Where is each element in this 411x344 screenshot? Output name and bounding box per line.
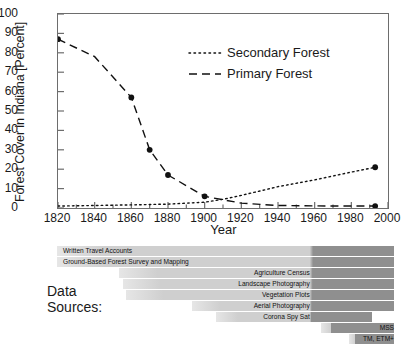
- y-tick-label: 10: [0, 182, 18, 194]
- data-source-row: Corona Spy Sat: [216, 312, 371, 322]
- data-source-row: Agriculture Census: [119, 268, 394, 278]
- data-source-label: Corona Spy Sat: [263, 312, 310, 322]
- legend-label-primary-forest: Primary Forest: [227, 66, 312, 81]
- data-point: [372, 203, 378, 208]
- legend-item-primary-forest: Primary Forest: [188, 63, 330, 84]
- data-point: [128, 95, 134, 101]
- data-sources-title: Data Sources:: [47, 283, 102, 315]
- data-source-label: Vegetation Plots: [262, 290, 310, 300]
- data-source-label: Landscape Photography: [238, 279, 310, 289]
- y-tick-label: 0: [0, 201, 18, 213]
- series-line: [58, 167, 375, 206]
- legend-label-secondary-forest: Secondary Forest: [227, 45, 330, 60]
- x-axis-label: Year: [57, 222, 390, 237]
- legend-key-dashed-icon: [188, 68, 222, 80]
- data-sources-panel: Data Sources: Written Travel AccountsGro…: [0, 243, 411, 343]
- data-source-row: Ground-Based Forest Survey and Mapping: [57, 257, 394, 267]
- data-point: [58, 36, 61, 42]
- y-tick-label: 60: [0, 85, 18, 97]
- data-source-label: Written Travel Accounts: [63, 246, 132, 256]
- forest-cover-chart: Forest Cover in Indiana [Percent] 010203…: [0, 0, 411, 243]
- data-sources-title-line2: Sources:: [47, 299, 102, 315]
- y-tick-label: 80: [0, 46, 18, 58]
- data-sources-title-line1: Data: [47, 283, 102, 299]
- data-source-row: MSS: [321, 323, 394, 333]
- chart-legend: Secondary Forest Primary Forest: [188, 42, 330, 84]
- y-tick-label: 50: [0, 104, 18, 116]
- data-source-row: Vegetation Plots: [126, 290, 394, 300]
- y-tick-label: 90: [0, 26, 18, 38]
- data-source-row: Landscape Photography: [123, 279, 394, 289]
- data-point: [202, 193, 208, 199]
- data-source-label: MSS: [380, 323, 394, 333]
- data-source-label: Aerial Photography: [254, 301, 310, 311]
- data-source-label: Agriculture Census: [254, 268, 310, 278]
- data-source-bar: [126, 290, 394, 300]
- data-source-row: Aerial Photography: [192, 301, 394, 311]
- y-tick-label: 20: [0, 162, 18, 174]
- y-tick-label: 70: [0, 65, 18, 77]
- data-point: [372, 164, 378, 170]
- data-point: [165, 172, 171, 178]
- y-tick-label: 30: [0, 143, 18, 155]
- legend-item-secondary-forest: Secondary Forest: [188, 42, 330, 63]
- data-source-row: Written Travel Accounts: [57, 246, 394, 256]
- data-source-label: TM, ETM+: [363, 334, 394, 344]
- data-point: [147, 147, 153, 153]
- y-tick-label: 100: [0, 7, 18, 19]
- y-tick-label: 40: [0, 123, 18, 135]
- data-source-label: Ground-Based Forest Survey and Mapping: [63, 257, 189, 267]
- legend-key-dotted-icon: [188, 47, 222, 59]
- data-source-row: TM, ETM+: [349, 334, 394, 344]
